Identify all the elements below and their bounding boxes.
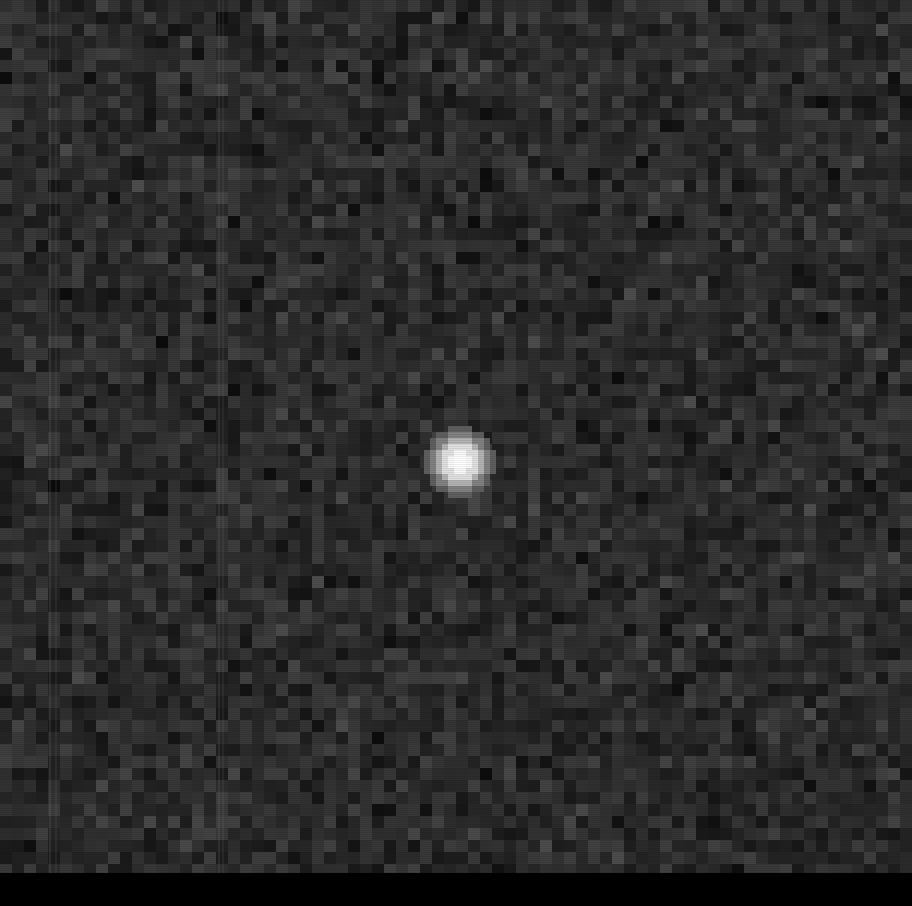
noise-background bbox=[0, 0, 912, 873]
bottom-black-strip bbox=[0, 873, 912, 906]
ccd-image-frame bbox=[0, 0, 912, 873]
